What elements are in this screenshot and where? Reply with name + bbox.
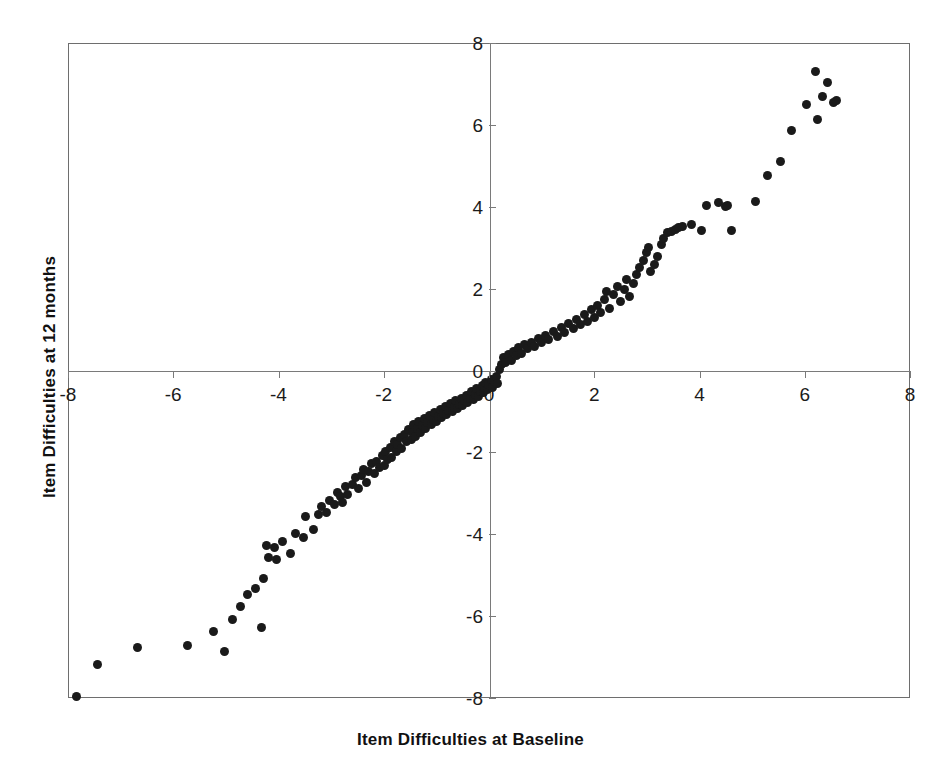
- x-tick: [700, 371, 701, 378]
- x-tick-label: 0: [484, 385, 495, 404]
- y-tick: [489, 698, 496, 699]
- y-tick: [489, 371, 496, 372]
- data-point: [183, 641, 192, 650]
- x-tick: [594, 371, 595, 378]
- data-point: [763, 171, 772, 180]
- y-tick-label: 8: [449, 34, 483, 53]
- x-tick-label: -2: [375, 385, 392, 404]
- data-point: [301, 512, 310, 521]
- y-tick: [489, 452, 496, 453]
- data-point: [723, 201, 732, 210]
- x-tick-label: 4: [694, 385, 705, 404]
- data-point: [560, 328, 569, 337]
- data-point: [727, 226, 736, 235]
- data-point: [257, 623, 266, 632]
- data-point: [787, 126, 796, 135]
- data-point: [600, 295, 609, 304]
- x-axis-title: Item Difficulties at Baseline: [0, 730, 941, 750]
- x-tick: [68, 371, 69, 378]
- data-point: [278, 537, 287, 546]
- data-point: [272, 555, 281, 564]
- data-point: [811, 67, 820, 76]
- y-tick-label: 4: [449, 197, 483, 216]
- data-point: [354, 484, 363, 493]
- data-point: [605, 304, 614, 313]
- data-point: [338, 498, 347, 507]
- data-point: [653, 252, 662, 261]
- y-tick-label: 0: [461, 361, 483, 380]
- data-point: [629, 279, 638, 288]
- y-tick-label: 6: [449, 115, 483, 134]
- data-point: [678, 222, 687, 231]
- y-tick-label: -6: [449, 607, 483, 626]
- y-tick-label: -2: [449, 443, 483, 462]
- x-tick: [173, 371, 174, 378]
- data-point: [236, 602, 245, 611]
- data-point: [702, 201, 711, 210]
- data-point: [133, 643, 142, 652]
- data-point: [343, 490, 352, 499]
- data-point: [687, 220, 696, 229]
- data-point: [309, 525, 318, 534]
- x-tick-label: -6: [165, 385, 182, 404]
- data-point: [209, 627, 218, 636]
- scatter-points-layer: [69, 44, 911, 699]
- x-tick-label: 6: [799, 385, 810, 404]
- x-tick: [910, 371, 911, 378]
- data-point: [596, 308, 605, 317]
- y-tick-label: -4: [449, 525, 483, 544]
- data-point: [72, 692, 81, 701]
- data-point: [813, 115, 822, 124]
- y-tick: [489, 125, 496, 126]
- data-point: [362, 478, 371, 487]
- x-tick: [489, 371, 490, 378]
- data-point: [270, 543, 279, 552]
- x-tick-label: 2: [589, 385, 600, 404]
- data-point: [616, 297, 625, 306]
- x-tick-label: -8: [60, 385, 77, 404]
- x-tick: [384, 371, 385, 378]
- data-point: [802, 100, 811, 109]
- y-tick-label: 2: [449, 279, 483, 298]
- data-point: [697, 226, 706, 235]
- y-tick: [489, 534, 496, 535]
- data-point: [228, 615, 237, 624]
- chart-page: -8-6-4-202468 -8-6-4-202468 Item Difficu…: [0, 0, 941, 768]
- y-tick: [489, 289, 496, 290]
- data-point: [493, 379, 502, 388]
- y-tick: [489, 616, 496, 617]
- data-point: [299, 533, 308, 542]
- data-point: [93, 660, 102, 669]
- y-tick: [489, 43, 496, 44]
- data-point: [259, 574, 268, 583]
- data-point: [818, 92, 827, 101]
- data-point: [243, 590, 252, 599]
- data-point: [832, 96, 841, 105]
- data-point: [286, 549, 295, 558]
- data-point: [644, 243, 653, 252]
- x-tick: [279, 371, 280, 378]
- y-tick-label: -8: [449, 689, 483, 708]
- y-tick: [489, 207, 496, 208]
- data-point: [823, 78, 832, 87]
- data-point: [220, 647, 229, 656]
- x-tick-label: 8: [905, 385, 916, 404]
- data-point: [251, 584, 260, 593]
- data-point: [776, 157, 785, 166]
- y-axis-title: Item Difficulties at 12 months: [40, 142, 60, 612]
- data-point: [751, 197, 760, 206]
- x-tick: [805, 371, 806, 378]
- data-point: [322, 508, 331, 517]
- x-tick-label: -4: [270, 385, 287, 404]
- data-point: [625, 292, 634, 301]
- data-point: [650, 260, 659, 269]
